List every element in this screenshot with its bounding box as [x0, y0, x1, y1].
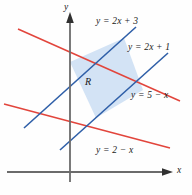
equation-label-line1: y = 2x + 3: [96, 16, 138, 26]
x-axis-arrowhead: [162, 168, 173, 176]
equation-label-line2: y = 2x + 1: [128, 42, 170, 52]
equation-label-line3: y = 5 − x: [131, 90, 168, 100]
x-axis-label: x: [177, 165, 181, 175]
y-axis-arrowhead: [66, 12, 74, 23]
region-label-r: R: [85, 76, 91, 87]
figure-canvas: y x R y = 2x + 3 y = 2x + 1 y = 5 − x y …: [0, 0, 192, 195]
equation-label-line4: y = 2 − x: [96, 145, 133, 155]
y-axis-label: y: [64, 2, 68, 12]
